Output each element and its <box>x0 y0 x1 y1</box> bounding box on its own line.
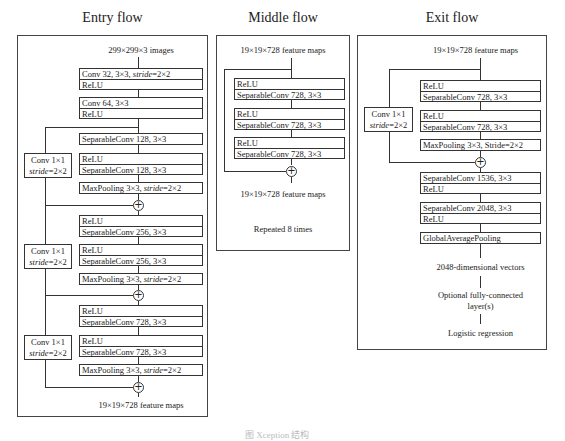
middle-output-label: 19×19×728 feature maps <box>216 189 350 199</box>
middle-layer3-box: ReLU SeparableConv 728, 3×3 <box>234 137 345 159</box>
entry-b3-pool-box: MaxPooling 3×3, stride=2×2 <box>79 364 203 376</box>
exit-sep2048-box: SeparableConv 2048, 3×3 ReLU <box>420 202 541 224</box>
exit-add-icon: + <box>475 157 486 168</box>
entry-b3-sep1-box: ReLU SeparableConv 728, 3×3 <box>79 305 203 327</box>
exit-pool-box: MaxPooling 3×3, Stride=2×2 <box>420 139 541 151</box>
exit-input-label: 19×19×728 feature maps <box>410 45 541 55</box>
entry-b1-add-icon: + <box>133 200 144 211</box>
exit-vector-label: 2048-dimensional vectors <box>420 262 541 272</box>
middle-layer1-box: ReLU SeparableConv 728, 3×3 <box>234 78 345 100</box>
entry-b1-skip-conv: Conv 1×1 stride=2×2 <box>24 153 72 178</box>
exit-fc-label-1: Optional fully-connected <box>420 290 541 300</box>
entry-b3-sep2-box: ReLU SeparableConv 728, 3×3 <box>79 335 203 357</box>
exit-fc-label-2: layer(s) <box>420 301 541 311</box>
exit-flow-title: Exit flow <box>357 10 547 26</box>
entry-flow-title: Entry flow <box>17 10 208 26</box>
exit-sep1536-box: SeparableConv 1536, 3×3 ReLU <box>420 172 541 194</box>
middle-flow-title: Middle flow <box>216 10 350 26</box>
entry-conv1-label: Conv 32, 3×3, stride=2×2 <box>82 69 170 79</box>
entry-conv1-box: Conv 32, 3×3, stride=2×2 ReLU <box>79 68 203 90</box>
exit-logistic-label: Logistic regression <box>420 328 541 338</box>
middle-repeat-label: Repeated 8 times <box>216 224 350 234</box>
exit-gap-box: GlobalAveragePooling <box>420 232 541 244</box>
entry-b3-skip-conv: Conv 1×1 stride=2×2 <box>24 335 72 360</box>
entry-output-label: 19×19×728 feature maps <box>79 400 203 410</box>
entry-b2-sep2-box: ReLU SeparableConv 256, 3×3 <box>79 244 203 266</box>
entry-input-label: 299×299×3 images <box>79 45 203 55</box>
entry-b2-sep1-box: ReLU SeparableConv 256, 3×3 <box>79 215 203 237</box>
exit-layer1-box: ReLU SeparableConv 728, 3×3 <box>420 80 541 102</box>
exit-skip-conv: Conv 1×1 stride=2×2 <box>364 107 413 132</box>
entry-b1-pool-box: MaxPooling 3×3, stride=2×2 <box>79 182 203 194</box>
entry-b3-add-icon: + <box>133 382 144 393</box>
entry-b2-pool-box: MaxPooling 3×3, stride=2×2 <box>79 273 203 285</box>
entry-conv2-box: Conv 64, 3×3 ReLU <box>79 97 203 119</box>
exit-layer2-box: ReLU SeparableConv 728, 3×3 <box>420 110 541 132</box>
middle-layer2-box: ReLU SeparableConv 728, 3×3 <box>234 108 345 130</box>
middle-input-label: 19×19×728 feature maps <box>216 45 350 55</box>
entry-b1-sep2-box: ReLU SeparableConv 128, 3×3 <box>79 153 203 175</box>
entry-b2-skip-conv: Conv 1×1 stride=2×2 <box>24 244 72 269</box>
middle-add-icon: + <box>286 166 297 177</box>
figure-caption: 图 Xception 结构 <box>245 428 310 441</box>
entry-b2-add-icon: + <box>133 290 144 301</box>
entry-b1-sep1-box: SeparableConv 128, 3×3 <box>79 133 203 145</box>
